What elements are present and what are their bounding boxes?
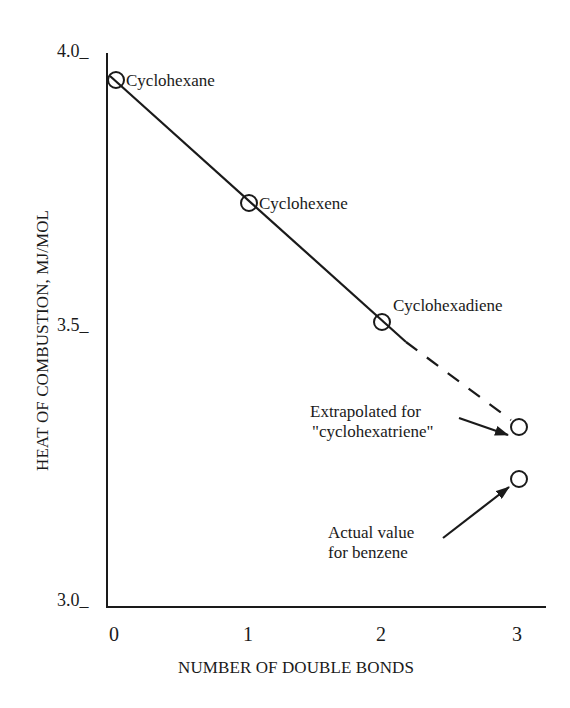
arrow-benzene-icon xyxy=(443,487,509,538)
x-tick-2: 2 xyxy=(376,624,386,644)
y-tick-3-0: 3.0_ xyxy=(57,591,89,609)
x-tick-3: 3 xyxy=(512,624,522,644)
label-cyclohexadiene: Cyclohexadiene xyxy=(393,297,503,314)
label-cyclohexane: Cyclohexane xyxy=(126,72,215,89)
y-tick-4-0: 4.0_ xyxy=(57,42,89,60)
heat-of-combustion-chart: 4.0_ 3.5_ 3.0_ 0 1 2 3 NUMBER OF DOUBLE … xyxy=(0,0,570,708)
point-cyclohexene-marker xyxy=(241,195,257,211)
extrapolation-dashed-line xyxy=(406,342,511,420)
annotation-benzene-line1: Actual value xyxy=(328,524,414,541)
arrow-extrapolated-icon xyxy=(459,418,508,435)
point-cyclohexatriene-extrapolated-marker xyxy=(511,419,527,435)
point-cyclohexadiene-marker xyxy=(374,314,390,330)
x-tick-0: 0 xyxy=(109,624,119,644)
point-benzene-actual-marker xyxy=(511,471,527,487)
annotation-extrapolated-line2: "cyclohexatriene" xyxy=(312,423,433,440)
label-cyclohexene: Cyclohexene xyxy=(259,195,348,212)
y-tick-3-5: 3.5_ xyxy=(57,316,89,334)
x-axis-title: NUMBER OF DOUBLE BONDS xyxy=(178,659,414,676)
measured-trend-line xyxy=(110,76,406,342)
y-axis-title: HEAT OF COMBUSTION, MJ/MOL xyxy=(34,210,51,471)
annotation-benzene-line2: for benzene xyxy=(328,544,408,561)
x-tick-1: 1 xyxy=(243,624,253,644)
annotation-extrapolated-line1: Extrapolated for xyxy=(310,403,421,420)
